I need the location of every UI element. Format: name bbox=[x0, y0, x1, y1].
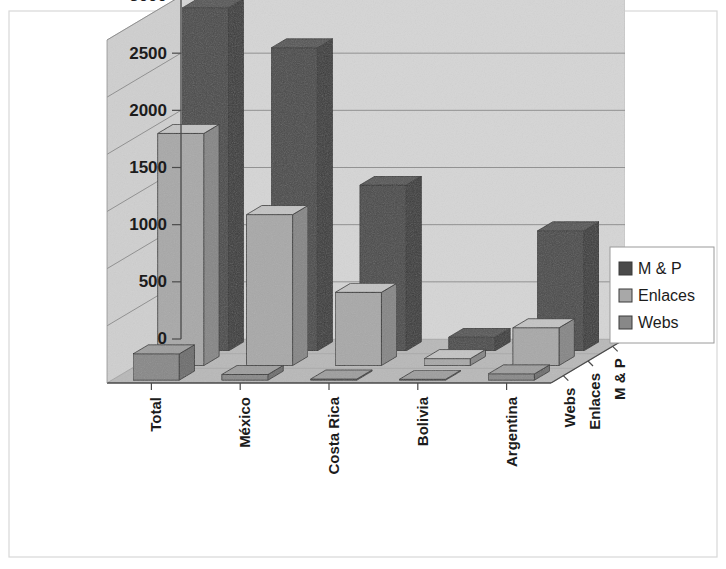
legend-label: M & P bbox=[638, 260, 682, 277]
legend-swatch-icon bbox=[619, 289, 632, 302]
chart-figure: 300025002000150010005000 TotalMéxicoCost… bbox=[0, 0, 726, 569]
category-labels: TotalMéxicoCosta RicaBoliviaArgentina bbox=[147, 383, 519, 475]
bar-front-face bbox=[449, 337, 495, 351]
legend-item-mp[interactable]: M & P bbox=[619, 260, 682, 277]
category-label-méxico: México bbox=[236, 397, 253, 448]
z-tick-mark bbox=[588, 361, 593, 366]
y-tick-label: 500 bbox=[139, 272, 167, 291]
bar-side-face bbox=[381, 283, 396, 365]
bar-chart-3d: 300025002000150010005000 TotalMéxicoCost… bbox=[0, 0, 726, 569]
bar-front-face bbox=[424, 359, 470, 366]
bar-side-face bbox=[317, 39, 332, 351]
category-label-bolivia: Bolivia bbox=[414, 396, 431, 446]
bar-mp-bolivia bbox=[449, 328, 510, 351]
bar-side-face bbox=[204, 124, 219, 365]
bar-enlaces-argentina bbox=[513, 319, 574, 366]
bar-webs-total bbox=[133, 345, 194, 380]
bar-side-face bbox=[584, 222, 599, 351]
legend-item-enlaces[interactable]: Enlaces bbox=[619, 287, 695, 304]
bar-side-face bbox=[293, 206, 308, 366]
depth-label-enlaces: Enlaces bbox=[586, 373, 603, 430]
y-tick-label: 2500 bbox=[129, 44, 167, 63]
legend-label: Enlaces bbox=[638, 287, 695, 304]
bar-front-face bbox=[488, 374, 534, 380]
depth-label-mp: M & P bbox=[611, 358, 628, 400]
category-label-costa-rica: Costa Rica bbox=[325, 396, 342, 474]
y-tick-label: 0 bbox=[158, 329, 167, 348]
legend-swatch-icon bbox=[619, 316, 632, 329]
bar-side-face bbox=[406, 176, 421, 351]
bar-front-face bbox=[513, 328, 559, 366]
bar-front-face bbox=[246, 215, 292, 366]
z-tick-mark bbox=[613, 346, 618, 351]
category-label-total: Total bbox=[147, 397, 164, 432]
y-tick-label: 3000 bbox=[129, 0, 167, 5]
y-tick-label: 2000 bbox=[129, 101, 167, 120]
legend-label: Webs bbox=[638, 314, 679, 331]
y-tick-label: 1000 bbox=[129, 215, 167, 234]
bar-enlaces-costa-rica bbox=[335, 283, 396, 365]
category-label-argentina: Argentina bbox=[503, 396, 520, 467]
bar-front-face bbox=[335, 292, 381, 365]
legend[interactable]: M & PEnlacesWebs bbox=[610, 247, 714, 343]
bar-enlaces-méxico bbox=[246, 206, 307, 366]
legend-item-webs[interactable]: Webs bbox=[619, 314, 679, 331]
bar-side-face bbox=[229, 0, 244, 351]
y-tick-label: 1500 bbox=[129, 158, 167, 177]
bar-front-face bbox=[222, 375, 268, 381]
depth-label-webs: Webs bbox=[561, 388, 578, 428]
z-tick-mark bbox=[563, 376, 568, 381]
legend-swatch-icon bbox=[619, 262, 632, 275]
bar-front-face bbox=[133, 354, 179, 380]
